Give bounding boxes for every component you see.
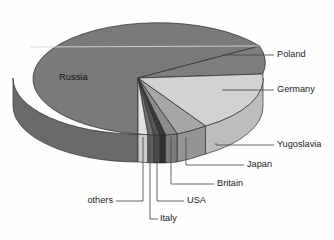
pie-label-poland: Poland	[277, 49, 306, 59]
pie-label-japan: Japan	[247, 159, 272, 169]
pie-label-others: others	[87, 195, 113, 205]
pie-label-yugoslavia: Yugoslavia	[277, 139, 322, 149]
pie-label-usa: USA	[187, 195, 207, 205]
side-wall-japan	[166, 134, 178, 163]
side-wall-britain	[160, 135, 166, 163]
pie-label-russia: Russia	[59, 71, 88, 82]
pie-chart-canvas: Russia Poland Germany Yugoslavia Japan B…	[0, 0, 334, 240]
side-wall-italy	[148, 135, 154, 163]
pie-chart-figure: Russia Poland Germany Yugoslavia Japan B…	[0, 0, 334, 240]
pie-label-italy: Italy	[160, 213, 177, 223]
pie-label-britain: Britain	[217, 178, 243, 188]
pie-label-germany: Germany	[277, 84, 315, 94]
